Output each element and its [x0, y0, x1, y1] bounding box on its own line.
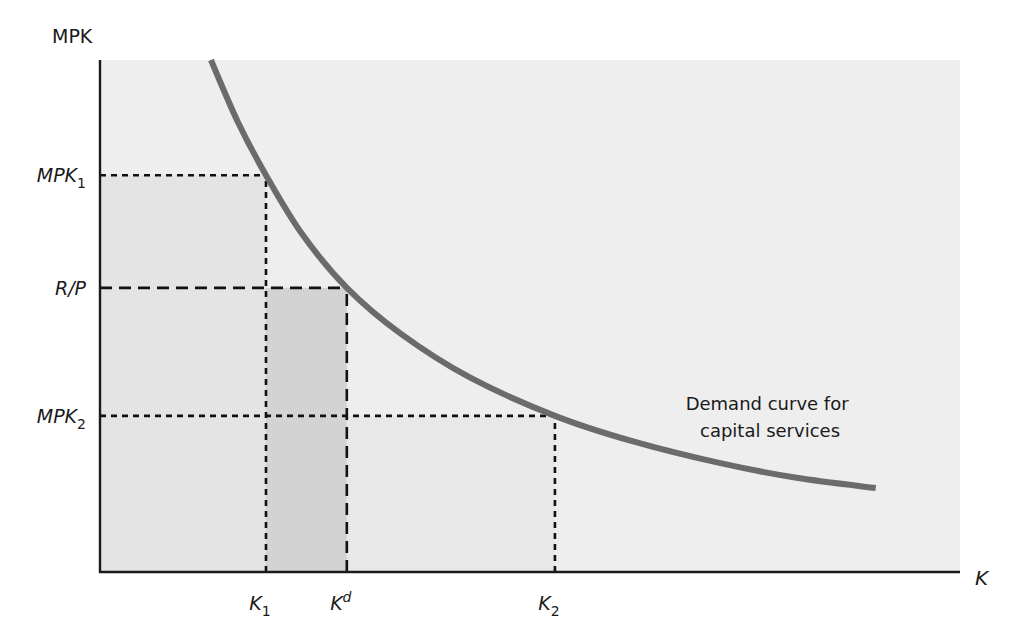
region-kd-k2 — [347, 416, 555, 572]
x-tick-k2: K2 — [538, 592, 559, 619]
demand-curve-label-line-2: capital services — [700, 420, 840, 441]
region-k1 — [100, 175, 266, 572]
y-axis-label: MPK — [52, 25, 93, 47]
y-tick-rp: R/P — [55, 277, 87, 299]
y-tick-subscript: 1 — [77, 175, 86, 191]
x-tick-subscript: 2 — [551, 603, 560, 619]
demand-curve-label-line-1: Demand curve for — [686, 393, 850, 414]
x-tick-k1: K1 — [249, 592, 270, 619]
y-tick-mpk1: MPK1 — [37, 164, 86, 191]
y-tick-base: MPK — [37, 405, 79, 427]
region-k1-kd — [266, 288, 347, 572]
demand-curve-chart: MPK K MPK1R/PMPK2 K1KdK2 Demand curve fo… — [0, 0, 1011, 632]
x-tick-labels: K1KdK2 — [249, 589, 559, 619]
x-tick-kd: Kd — [330, 589, 351, 614]
x-tick-superscript: d — [343, 589, 352, 605]
x-tick-subscript: 1 — [262, 603, 271, 619]
x-axis-label: K — [975, 566, 990, 590]
y-tick-mpk2: MPK2 — [37, 405, 86, 432]
y-tick-base: MPK — [37, 164, 79, 186]
y-tick-labels: MPK1R/PMPK2 — [37, 164, 87, 432]
y-tick-subscript: 2 — [77, 416, 86, 432]
y-tick-base: R/P — [55, 277, 87, 299]
